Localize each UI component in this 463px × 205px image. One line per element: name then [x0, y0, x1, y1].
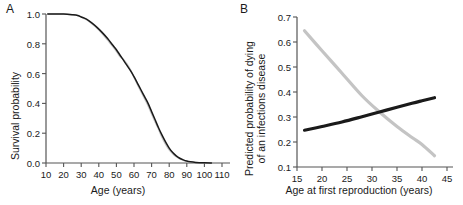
y-tick-label: 0.2	[8, 128, 40, 139]
x-tick-label: 10	[41, 169, 52, 180]
y-tick-label: 0.4	[8, 98, 40, 109]
x-tick-label: 20	[317, 173, 328, 184]
y-tick-label: 1.0	[8, 9, 40, 20]
x-tick-label: 30	[76, 169, 87, 180]
panel-b-y-axis-line1: Predicted probability of dying	[243, 41, 255, 176]
panel-a-y-axis-title: Survival probability	[9, 72, 21, 160]
figure-container: A Age (years) Survival probability 10203…	[0, 0, 463, 205]
y-tick-label: 0.3	[259, 112, 291, 123]
x-tick-label: 35	[392, 173, 403, 184]
y-tick-label: 0.5	[259, 62, 291, 73]
y-tick-label: 0.4	[259, 87, 291, 98]
x-tick-label: 70	[146, 169, 157, 180]
y-tick-label: 0.1	[259, 162, 291, 173]
x-tick-label: 30	[367, 173, 378, 184]
panel-a: A Age (years) Survival probability 10203…	[0, 0, 236, 205]
x-tick-label: 50	[111, 169, 122, 180]
panel-a-x-axis-title: Age (years)	[0, 184, 236, 196]
y-tick-label: 0.6	[8, 68, 40, 79]
x-tick-label: 110	[214, 169, 229, 180]
x-tick-label: 45	[442, 173, 453, 184]
x-tick-label: 40	[94, 169, 105, 180]
x-tick-label: 80	[164, 169, 175, 180]
x-tick-label: 90	[182, 169, 193, 180]
y-tick-label: 0.7	[259, 12, 291, 23]
x-tick-label: 100	[196, 169, 212, 180]
x-tick-label: 60	[129, 169, 140, 180]
y-tick-label: 0.6	[259, 37, 291, 48]
y-tick-label: 0.2	[259, 137, 291, 148]
panel-b-x-axis-title: Age at first reproduction (years)	[255, 184, 463, 196]
panel-b: B Age at first reproduction (years) Pred…	[236, 0, 463, 205]
x-tick-label: 40	[417, 173, 428, 184]
x-tick-label: 25	[342, 173, 353, 184]
x-tick-label: 20	[58, 169, 69, 180]
x-tick-label: 15	[292, 173, 303, 184]
y-tick-label: 0.0	[8, 158, 40, 169]
y-tick-label: 0.8	[8, 38, 40, 49]
